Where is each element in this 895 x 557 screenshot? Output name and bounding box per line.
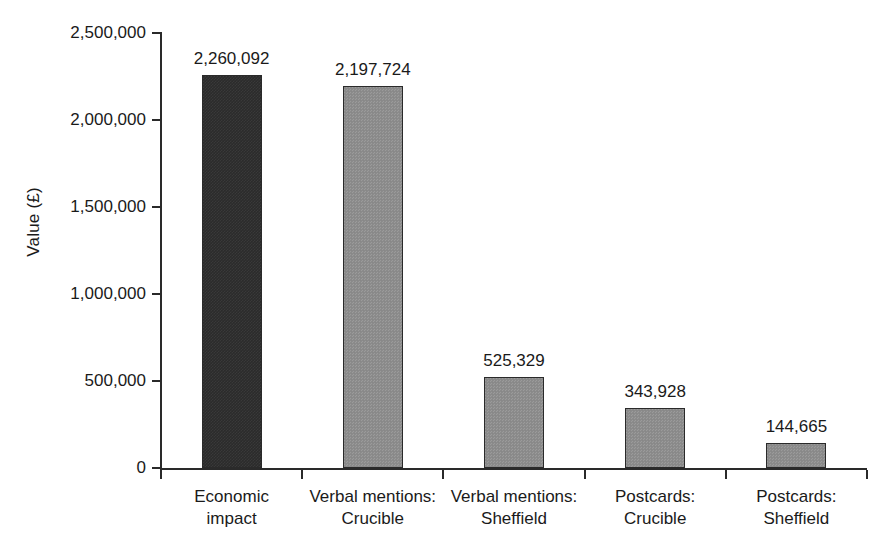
y-axis-tick [152,380,161,382]
x-axis-category-label-line: Verbal mentions: [443,486,584,508]
x-axis-tick [442,470,444,479]
x-axis-category-label: Verbal mentions:Crucible [302,486,443,530]
x-axis-tick [160,470,162,479]
x-axis-tick [301,470,303,479]
y-axis-tick-label: 1,500,000 [6,198,146,215]
x-axis-category-label: Verbal mentions:Sheffield [443,486,584,530]
bar-value-label: 525,329 [434,352,594,370]
bar [484,377,544,468]
bar-value-label: 2,197,724 [293,61,453,79]
bar [766,443,826,468]
x-axis-category-label-line: Sheffield [443,508,584,530]
y-axis-tick-label: 500,000 [6,372,146,389]
x-axis-category-label-line: Postcards: [585,486,726,508]
bar [202,75,262,468]
x-axis-category-label: Postcards:Crucible [585,486,726,530]
y-axis-title: Value (£) [24,162,44,282]
y-axis-line [160,32,162,470]
x-axis-category-label-line: Crucible [302,508,443,530]
y-axis-tick [152,206,161,208]
x-axis-tick [584,470,586,479]
x-axis-tick [866,470,868,479]
x-axis-category-label: Economicimpact [161,486,302,530]
bar-chart: Value (£) 0500,0001,000,0001,500,0002,00… [0,0,895,557]
x-axis-category-label: Postcards:Sheffield [726,486,867,530]
x-axis-line [160,468,867,470]
y-axis-tick-label: 2,000,000 [6,111,146,128]
bar [343,86,403,468]
bar-value-label: 144,665 [716,418,876,436]
y-axis-tick [152,293,161,295]
y-axis-tick-label: 0 [6,459,146,476]
y-axis-tick [152,119,161,121]
x-axis-category-label-line: Crucible [585,508,726,530]
y-axis-tick [152,467,161,469]
bar-value-label: 2,260,092 [152,50,312,68]
y-axis-tick-label: 1,000,000 [6,285,146,302]
x-axis-tick [725,470,727,479]
bar [625,408,685,468]
x-axis-category-label-line: Postcards: [726,486,867,508]
x-axis-category-label-line: Sheffield [726,508,867,530]
y-axis-tick [152,32,161,34]
y-axis-tick-label: 2,500,000 [6,24,146,41]
x-axis-category-label-line: Verbal mentions: [302,486,443,508]
x-axis-category-label-line: impact [161,508,302,530]
bar-value-label: 343,928 [575,383,735,401]
x-axis-category-label-line: Economic [161,486,302,508]
